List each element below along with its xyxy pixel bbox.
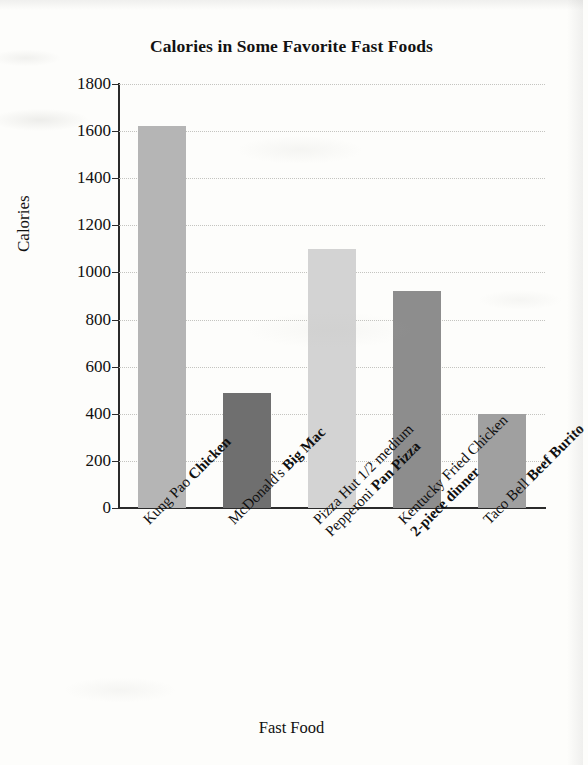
y-axis-tick [112,272,119,273]
y-tick-label: 0 [53,498,111,518]
y-tick-label: 1800 [53,74,111,94]
bar [138,126,186,508]
x-axis-title: Fast Food [0,718,583,738]
y-tick-label: 1400 [53,168,111,188]
y-axis-tick [112,178,119,179]
y-axis-tick [112,367,119,368]
bar [308,249,356,508]
y-tick-label: 1000 [53,262,111,282]
y-tick-label: 600 [53,357,111,377]
y-axis-tick [112,225,119,226]
y-axis-tick [112,131,119,132]
y-tick-label: 1600 [53,121,111,141]
chart-title: Calories in Some Favorite Fast Foods [0,36,583,57]
y-tick-label: 200 [53,451,111,471]
page-scan-edge-shadow [567,0,583,765]
page-scan-top-shadow [0,0,583,10]
gridline [119,84,545,85]
y-axis-tick [112,461,119,462]
y-axis-title: Calories [14,195,34,252]
y-tick-label: 800 [53,310,111,330]
y-axis-tick [112,414,119,415]
y-axis-tick [112,508,119,509]
y-axis-tick [112,84,119,85]
y-tick-label: 400 [53,404,111,424]
y-axis-tick [112,320,119,321]
y-tick-label: 1200 [53,215,111,235]
